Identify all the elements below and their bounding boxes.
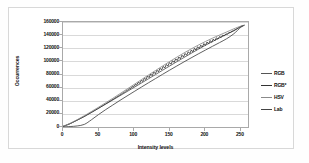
legend-label: Lab bbox=[274, 107, 282, 112]
legend-label: RGB bbox=[274, 71, 285, 76]
x-tick-label: 0 bbox=[51, 132, 73, 137]
x-tick-label: 200 bbox=[193, 132, 215, 137]
x-tick-mark bbox=[240, 128, 241, 131]
x-tick-label: 100 bbox=[122, 132, 144, 137]
legend-label: RGB* bbox=[274, 83, 286, 88]
legend-label: HSV bbox=[274, 95, 284, 100]
x-tick-label: 150 bbox=[158, 132, 180, 137]
chart-page: 0200004000060000800001000001200001400001… bbox=[0, 0, 309, 163]
x-tick-label: 50 bbox=[87, 132, 109, 137]
chart-frame: 0200004000060000800001000001200001400001… bbox=[8, 7, 294, 149]
x-tick-mark bbox=[98, 128, 99, 131]
x-tick-label: 250 bbox=[229, 132, 251, 137]
legend-swatch-icon bbox=[261, 73, 272, 74]
x-tick-mark bbox=[133, 128, 134, 131]
x-tick-mark bbox=[62, 128, 63, 131]
x-axis-title: Intensity levels bbox=[62, 144, 249, 150]
legend-swatch-icon bbox=[261, 85, 272, 86]
legend-item[interactable]: RGB* bbox=[261, 80, 305, 90]
legend-item[interactable]: Lab bbox=[261, 104, 305, 114]
chart-legend: RGBRGB*HSVLab bbox=[261, 68, 305, 116]
y-axis-title: Occurrences bbox=[14, 47, 20, 95]
legend-swatch-icon bbox=[261, 97, 272, 98]
legend-swatch-icon bbox=[261, 109, 272, 110]
x-tick-mark bbox=[204, 128, 205, 131]
legend-item[interactable]: HSV bbox=[261, 92, 305, 102]
x-tick-mark bbox=[169, 128, 170, 131]
legend-item[interactable]: RGB bbox=[261, 68, 305, 78]
